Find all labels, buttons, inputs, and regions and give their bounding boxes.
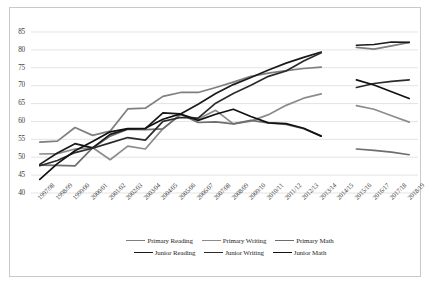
legend-item[interactable]: Junior Writing	[204, 249, 264, 256]
legend-line-swatch	[134, 252, 153, 253]
legend-item[interactable]: Junior Math	[273, 249, 326, 256]
legend-label: Primary Math	[296, 237, 333, 244]
series-line	[356, 149, 409, 155]
y-axis-tick-label: 75	[3, 64, 25, 72]
legend-item[interactable]: Primary Math	[275, 237, 333, 244]
legend-line-swatch	[202, 240, 221, 241]
y-axis-tick-label: 55	[3, 135, 25, 143]
y-axis-tick-label: 60	[3, 117, 25, 125]
legend-line-swatch	[204, 252, 223, 253]
legend-row-junior: Junior ReadingJunior WritingJunior Math	[95, 246, 365, 258]
y-axis-tick-label: 40	[3, 189, 25, 197]
legend-label: Junior Reading	[155, 249, 196, 256]
y-axis-tick-label: 70	[3, 81, 25, 89]
y-axis-tick-label: 65	[3, 99, 25, 107]
legend-line-swatch	[273, 252, 292, 253]
series-lines	[40, 42, 409, 179]
series-line	[356, 80, 409, 88]
series-line	[40, 67, 321, 142]
y-axis-tick-label: 80	[3, 46, 25, 54]
series-line	[356, 106, 409, 122]
legend-row-primary: Primary ReadingPrimary WritingPrimary Ma…	[95, 234, 365, 246]
y-axis-tick-label: 45	[3, 171, 25, 179]
series-line	[40, 114, 321, 166]
legend-item[interactable]: Primary Writing	[202, 237, 266, 244]
legend-item[interactable]: Junior Reading	[134, 249, 196, 256]
legend-item[interactable]: Primary Reading	[126, 237, 192, 244]
chart-legend: Primary ReadingPrimary WritingPrimary Ma…	[95, 234, 365, 258]
series-line	[40, 109, 321, 179]
y-axis-tick-label: 50	[3, 153, 25, 161]
legend-label: Primary Writing	[223, 237, 266, 244]
legend-label: Junior Writing	[225, 249, 264, 256]
legend-line-swatch	[275, 240, 294, 241]
legend-label: Junior Math	[294, 249, 326, 256]
y-axis-tick-label: 85	[3, 28, 25, 36]
legend-label: Primary Reading	[147, 237, 192, 244]
line-chart: 40455055606570758085 1997/981998/991999/…	[0, 0, 432, 284]
legend-line-swatch	[126, 240, 145, 241]
